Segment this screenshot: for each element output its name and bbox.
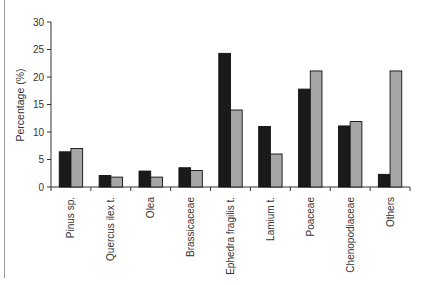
x-category-label: Lamium t.	[265, 197, 276, 241]
x-category-label: Ephedra fragilis t.	[225, 197, 236, 275]
bar-series2	[270, 154, 282, 187]
bar-series2	[71, 149, 83, 188]
bar-series1	[99, 175, 111, 187]
y-tick-label: 10	[33, 127, 45, 138]
bar-series2	[350, 122, 362, 187]
y-tick-label: 20	[33, 72, 45, 83]
bar-series1	[338, 126, 350, 187]
bar-chart: 051015202530 Pinus sp.Quercus ilex t.Ole…	[0, 0, 422, 285]
bar-series1	[378, 174, 390, 187]
y-tick-label: 0	[38, 182, 44, 193]
y-tick-label: 30	[33, 17, 45, 28]
bar-series1	[299, 89, 311, 187]
bar-series	[59, 53, 402, 187]
bar-series1	[179, 168, 191, 187]
x-category-label: Pinus sp.	[65, 197, 76, 238]
x-category-label: Poaceae	[305, 197, 316, 237]
y-axis-title: Percentage (%)	[14, 69, 26, 142]
y-axis: 051015202530	[33, 17, 51, 193]
bar-series2	[151, 177, 163, 187]
x-category-label: Chenopodiaceae	[345, 197, 356, 273]
bar-series1	[219, 53, 231, 187]
x-category-label: Others	[385, 197, 396, 227]
bar-series1	[139, 171, 151, 187]
bar-series2	[310, 71, 322, 187]
x-category-label: Brassicaceae	[185, 197, 196, 257]
y-tick-label: 25	[33, 44, 45, 55]
bar-series2	[191, 171, 203, 188]
x-axis	[51, 187, 410, 191]
bar-series2	[231, 110, 243, 187]
bar-series1	[259, 127, 271, 188]
category-labels: Pinus sp.Quercus ilex t.OleaBrassicaceae…	[65, 197, 395, 275]
y-tick-label: 15	[33, 99, 45, 110]
y-tick-label: 5	[38, 154, 44, 165]
bar-series1	[59, 152, 71, 187]
x-category-label: Olea	[145, 197, 156, 219]
bar-series2	[111, 177, 123, 187]
bar-series2	[390, 71, 402, 187]
x-category-label: Quercus ilex t.	[105, 197, 116, 261]
